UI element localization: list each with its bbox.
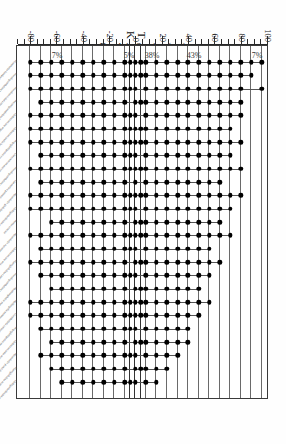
occurrence-dot — [59, 326, 64, 331]
percent-annotation: 7% — [52, 51, 63, 60]
occurrence-dot — [49, 260, 54, 265]
occurrence-dot — [207, 233, 212, 238]
species-range-line — [41, 182, 220, 183]
occurrence-dot — [112, 113, 117, 118]
occurrence-dot — [112, 153, 117, 158]
occurrence-dot — [165, 246, 170, 251]
occurrence-dot — [207, 60, 212, 65]
occurrence-dot — [196, 126, 201, 131]
occurrence-dot — [91, 340, 96, 345]
occurrence-dot — [38, 113, 43, 118]
occurrence-dot — [128, 140, 133, 145]
occurrence-dot — [175, 233, 180, 238]
occurrence-dot — [91, 246, 96, 251]
occurrence-dot — [38, 353, 43, 358]
occurrence-dot — [123, 100, 128, 105]
occurrence-dot — [70, 100, 75, 105]
occurrence-dot — [49, 220, 54, 225]
occurrence-dot — [91, 260, 96, 265]
occurrence-dot — [59, 260, 64, 265]
occurrence-dot — [144, 326, 149, 331]
occurrence-dot — [175, 273, 180, 278]
occurrence-dot — [186, 86, 191, 91]
occurrence-dot — [133, 60, 138, 65]
horizon-line — [29, 46, 30, 398]
occurrence-dot — [38, 273, 43, 278]
occurrence-dot — [154, 126, 159, 131]
occurrence-dot — [70, 380, 75, 385]
occurrence-dot — [133, 153, 138, 158]
occurrence-dot — [112, 380, 117, 385]
range-chart-figure: A. Investigator A (Canudo) Depth in Sect… — [0, 0, 286, 444]
y-tick — [267, 36, 268, 44]
occurrence-dot — [112, 140, 117, 145]
y-tick-minor — [221, 39, 222, 44]
occurrence-dot — [81, 286, 86, 291]
occurrence-dot — [38, 326, 43, 331]
occurrence-dot — [91, 166, 96, 171]
occurrence-dot — [70, 366, 75, 371]
occurrence-dot — [186, 340, 191, 345]
occurrence-dot — [81, 233, 86, 238]
occurrence-dot — [133, 140, 138, 145]
occurrence-dot — [123, 286, 128, 291]
occurrence-dot — [196, 100, 201, 105]
occurrence-dot — [207, 113, 212, 118]
occurrence-dot — [102, 180, 107, 185]
occurrence-dot — [81, 153, 86, 158]
occurrence-dot — [144, 73, 149, 78]
occurrence-dot — [38, 246, 43, 251]
occurrence-dot — [59, 73, 64, 78]
occurrence-dot — [128, 233, 133, 238]
occurrence-dot — [38, 300, 43, 305]
occurrence-dot — [196, 260, 201, 265]
occurrence-dot — [59, 113, 64, 118]
occurrence-dot — [138, 340, 143, 345]
occurrence-dot — [133, 193, 138, 198]
occurrence-dot — [128, 166, 133, 171]
y-tick-minor — [116, 39, 117, 44]
occurrence-dot — [133, 313, 138, 318]
occurrence-dot — [217, 166, 222, 171]
occurrence-dot — [196, 286, 201, 291]
occurrence-dot — [102, 246, 107, 251]
occurrence-dot — [175, 113, 180, 118]
occurrence-dot — [59, 246, 64, 251]
occurrence-dot — [186, 273, 191, 278]
occurrence-dot — [59, 233, 64, 238]
occurrence-dot — [81, 126, 86, 131]
occurrence-dot — [38, 193, 43, 198]
occurrence-dot — [81, 326, 86, 331]
occurrence-dot — [49, 60, 54, 65]
occurrence-dot — [133, 246, 138, 251]
boundary-marker-t: T — [136, 32, 148, 39]
y-tick — [214, 36, 215, 44]
occurrence-dot — [81, 300, 86, 305]
occurrence-dot — [154, 340, 159, 345]
occurrence-dot — [102, 286, 107, 291]
occurrence-dot — [81, 273, 86, 278]
occurrence-dot — [154, 206, 159, 211]
occurrence-dot — [138, 366, 143, 371]
occurrence-dot — [112, 100, 117, 105]
species-labels: Plummerita hantkeninoidesPseudoguembelin… — [0, 45, 17, 397]
occurrence-dot — [175, 326, 180, 331]
occurrence-dot — [102, 126, 107, 131]
occurrence-dot — [28, 300, 33, 305]
occurrence-dot — [123, 300, 128, 305]
occurrence-dot — [207, 153, 212, 158]
occurrence-dot — [165, 340, 170, 345]
occurrence-dot — [175, 73, 180, 78]
occurrence-dot — [175, 220, 180, 225]
percent-annotation: 38% — [145, 51, 160, 60]
occurrence-dot — [207, 126, 212, 131]
occurrence-dot — [91, 180, 96, 185]
occurrence-dot — [112, 286, 117, 291]
occurrence-dot — [70, 60, 75, 65]
occurrence-dot — [70, 326, 75, 331]
occurrence-dot — [175, 260, 180, 265]
occurrence-dot — [70, 140, 75, 145]
occurrence-dot — [165, 326, 170, 331]
occurrence-dot — [133, 126, 138, 131]
occurrence-dot — [175, 313, 180, 318]
